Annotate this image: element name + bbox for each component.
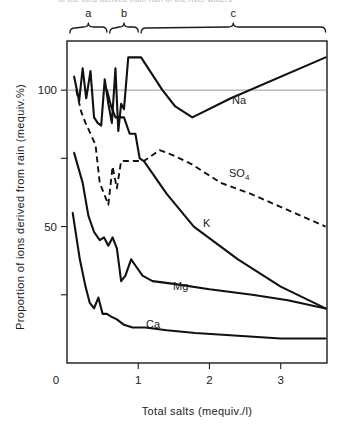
y-axis-title-label: Proportion of ions derived from rain (me… <box>14 84 26 330</box>
x-tick-label: 1 <box>135 374 141 386</box>
y-axis-title: Proportion of ions derived from rain (me… <box>14 84 26 330</box>
series-label-subscript: 4 <box>245 173 250 182</box>
cropped-caption-line: of the ions derived from rain in the riv… <box>58 0 328 2</box>
group-bracket-a <box>70 23 107 33</box>
data-series-layer <box>73 57 326 338</box>
series-line-k <box>107 90 326 308</box>
ion-proportion-line-chart: abc 10050 0123 NaSO4KMgCa Proportion of … <box>0 0 338 427</box>
group-brackets: abc <box>70 7 326 33</box>
series-line-na <box>74 57 325 131</box>
x-tick-label: 2 <box>206 374 212 386</box>
x-axis-ticks: 0123 <box>53 363 284 386</box>
group-bracket-label-c: c <box>231 7 237 19</box>
group-bracket-label-b: b <box>121 7 127 19</box>
series-label-k: K <box>203 217 211 229</box>
series-label-na: Na <box>232 94 247 106</box>
group-bracket-b <box>110 23 138 33</box>
y-tick-label: 100 <box>38 84 57 96</box>
series-label-ca: Ca <box>146 318 161 330</box>
series-label-mg: Mg <box>173 280 188 292</box>
group-bracket-c <box>141 23 325 33</box>
series-inline-labels: NaSO4KMgCa <box>146 94 250 330</box>
y-tick-label: 50 <box>44 221 57 233</box>
x-tick-label: 3 <box>277 374 283 386</box>
series-label-so4: SO4 <box>229 167 250 182</box>
x-axis-title-label: Total salts (mequiv./l) <box>142 405 253 417</box>
y-axis-ticks: 10050 <box>38 84 67 295</box>
figure-container: of the ions derived from rain in the riv… <box>0 0 338 427</box>
group-bracket-label-a: a <box>85 7 92 19</box>
x-tick-label: 0 <box>53 374 59 386</box>
x-axis-title: Total salts (mequiv./l) <box>142 405 253 417</box>
